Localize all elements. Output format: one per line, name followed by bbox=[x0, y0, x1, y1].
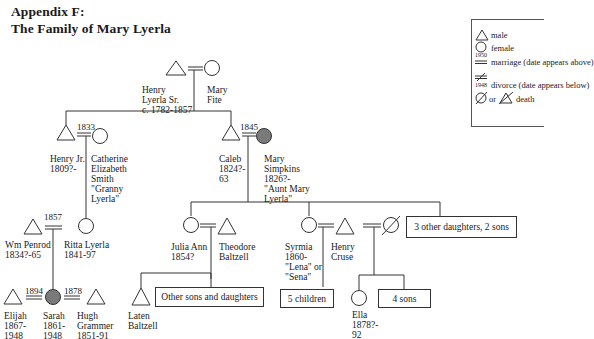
ella-label: Ella1878?-92 bbox=[352, 310, 378, 339]
wm-penrod-label: Wm Penrod1834?-65 bbox=[5, 240, 51, 260]
henry-sr-triangle bbox=[166, 61, 186, 75]
other-daughters-box: 3 other daughters, 2 sons bbox=[406, 216, 517, 238]
ritta-label: Ritta Lyerla1841-97 bbox=[64, 240, 109, 260]
legend-triangle-icon bbox=[476, 30, 488, 40]
hugh-triangle bbox=[87, 289, 105, 304]
wm-penrod-triangle bbox=[24, 219, 42, 234]
five-children-box: 5 children bbox=[280, 289, 334, 308]
legend-marriage-label: marriage (date appears above) bbox=[491, 57, 594, 67]
marriage-year-1845: 1845 bbox=[240, 122, 258, 132]
henry-cruse-triangle bbox=[336, 218, 354, 234]
marriage-year-1833: 1833 bbox=[77, 122, 95, 132]
four-sons-box: 4 sons bbox=[378, 289, 431, 308]
elijah-triangle bbox=[4, 289, 22, 304]
ella-circle bbox=[352, 291, 367, 306]
mary-fite-circle bbox=[205, 61, 220, 76]
marriage-year-1857: 1857 bbox=[44, 212, 62, 222]
ritta-circle bbox=[79, 219, 94, 234]
theodore-triangle bbox=[218, 218, 236, 234]
legend-or-label: or bbox=[489, 94, 496, 104]
legend-male-label: male bbox=[491, 30, 508, 40]
legend-female-label: female bbox=[491, 43, 514, 53]
caleb-triangle bbox=[222, 125, 240, 140]
laten-triangle bbox=[132, 288, 150, 305]
marriage-year-1878: 1878 bbox=[64, 286, 82, 296]
henry-cruse-label: HenryCruse bbox=[331, 242, 355, 262]
legend-divorce-label: divorce (date appears below) bbox=[491, 80, 589, 90]
catherine-label: CatherineElizabethSmith"GrannyLyerla" bbox=[91, 154, 128, 204]
henry-jr-triangle bbox=[57, 125, 75, 140]
other-sons-daughters-box: Other sons and daughters bbox=[155, 287, 264, 307]
laten-label: LatenBaltzell bbox=[128, 311, 158, 331]
syrmia-label: Syrmia1860-"Lena" or"Sena" bbox=[285, 242, 322, 282]
hugh-label: HughGrammer1851-91 bbox=[77, 311, 113, 339]
julia-ann-circle bbox=[184, 218, 199, 233]
legend-divorce-year: 1948 bbox=[475, 82, 487, 88]
legend-circle-icon bbox=[476, 42, 486, 52]
henry-jr-label: Henry Jr.1809?- bbox=[50, 154, 85, 174]
julia-ann-label: Julia Ann1854? bbox=[171, 242, 207, 262]
legend-marriage-year: 1950 bbox=[475, 52, 487, 58]
elijah-label: Elijah1867-1948 bbox=[4, 311, 27, 339]
sarah-label: Sarah1861-1948 bbox=[43, 311, 65, 339]
marriage-year-1894: 1894 bbox=[25, 286, 43, 296]
henry-sr-label: HenryLyerla Sr.c. 1782-1857 bbox=[142, 85, 192, 115]
caleb-label: Caleb1824?-63 bbox=[219, 154, 245, 184]
theodore-label: TheodoreBaltzell bbox=[219, 242, 255, 262]
mary-simpkins-circle bbox=[257, 129, 272, 144]
legend-death-label: death bbox=[516, 94, 534, 104]
mary-fite-label: MaryFite bbox=[207, 85, 228, 105]
mary-simpkins-label: MarySimpkins1826?-"Aunt MaryLyerla" bbox=[264, 154, 310, 204]
sarah-circle bbox=[46, 290, 61, 305]
syrmia-circle bbox=[302, 218, 317, 233]
